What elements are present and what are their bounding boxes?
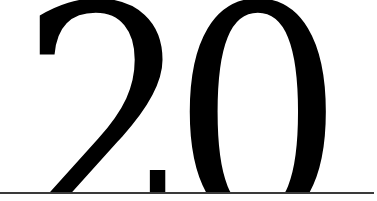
baseline-rule [0, 192, 374, 194]
large-number-text: 20 [20, 0, 324, 193]
cropped-number-display: 20 [0, 0, 377, 193]
